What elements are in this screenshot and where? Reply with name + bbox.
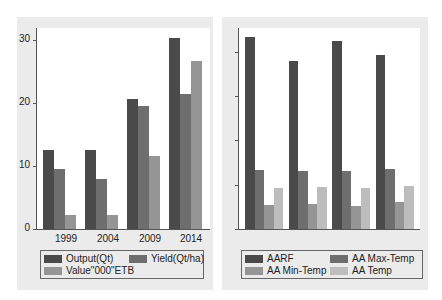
bar (255, 170, 265, 229)
left-x-axis (36, 229, 210, 230)
legend-item: AA Min-Temp (245, 265, 326, 276)
bar (43, 150, 54, 229)
legend-label: Output(Qt) (66, 253, 113, 264)
legend-item: Output(Qt) (44, 253, 113, 264)
bar (54, 169, 65, 229)
left-legend: Output(Qt) Yield(Qt/ha) Value"000"ETB (40, 250, 204, 279)
right-legend: AARF AA Max-Temp AA Min-Temp AA Temp (241, 250, 423, 279)
bar (342, 171, 352, 229)
bar (85, 150, 96, 229)
y-tick (235, 96, 238, 97)
y-tick (33, 166, 36, 167)
legend-label: AA Temp (352, 265, 392, 276)
y-tick (33, 103, 36, 104)
bar (289, 61, 299, 229)
bar (395, 202, 405, 229)
legend-label: Yield(Qt/ha) (151, 253, 204, 264)
bar (191, 61, 202, 229)
bar (298, 171, 308, 229)
legend-label: Value"000"ETB (66, 265, 134, 276)
x-label: 2004 (88, 233, 128, 244)
y-tick (33, 40, 36, 41)
bar (308, 204, 318, 229)
bar (351, 206, 361, 229)
bar (385, 169, 395, 229)
legend-swatch (44, 255, 62, 263)
legend-item: Yield(Qt/ha) (129, 253, 204, 264)
legend-swatch (44, 267, 62, 275)
legend-swatch (245, 255, 263, 263)
legend-label: AA Min-Temp (267, 265, 326, 276)
left-y-axis (36, 28, 37, 230)
x-label: 2009 (130, 233, 170, 244)
y-tick (235, 52, 238, 53)
right-x-axis (238, 229, 420, 230)
bar (332, 41, 342, 229)
legend-swatch (330, 255, 348, 263)
bar (376, 55, 386, 229)
bar (169, 38, 180, 229)
legend-item: Value"000"ETB (44, 265, 134, 276)
y-tick (235, 140, 238, 141)
bar (107, 215, 118, 229)
legend-label: AA Max-Temp (352, 253, 414, 264)
y-tick-label: 0 (10, 222, 30, 233)
bar (96, 179, 107, 229)
bar (138, 106, 149, 229)
y-tick-label: 10 (10, 159, 30, 170)
legend-swatch (330, 267, 348, 275)
y-tick-label: 20 (10, 96, 30, 107)
bar (361, 188, 371, 229)
legend-swatch (245, 267, 263, 275)
legend-item: AARF (245, 253, 294, 264)
bar (274, 188, 284, 229)
y-tick-label: 30 (10, 33, 30, 44)
bar (317, 187, 327, 229)
bar (149, 156, 160, 229)
legend-label: AARF (267, 253, 294, 264)
bar (264, 205, 274, 229)
x-label: 1999 (46, 233, 86, 244)
x-label: 2014 (171, 233, 211, 244)
bar (127, 99, 138, 229)
legend-item: AA Temp (330, 265, 392, 276)
y-tick (235, 229, 238, 230)
right-y-axis (238, 28, 239, 230)
bar (245, 37, 255, 229)
y-tick (235, 185, 238, 186)
y-tick (33, 229, 36, 230)
legend-item: AA Max-Temp (330, 253, 414, 264)
bar (65, 215, 76, 229)
bar (180, 94, 191, 229)
legend-swatch (129, 255, 147, 263)
bar (404, 186, 414, 229)
